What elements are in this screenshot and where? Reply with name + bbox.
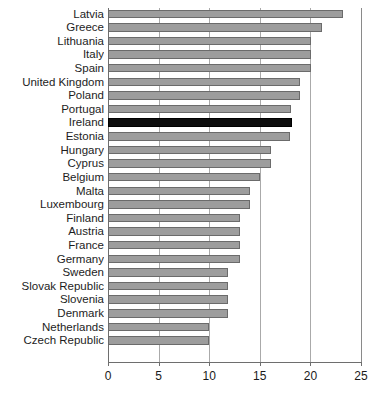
bar-row <box>108 144 361 158</box>
category-label-belgium: Belgium <box>0 171 104 184</box>
category-label-slovenia: Slovenia <box>0 293 104 306</box>
category-label-france: France <box>0 239 104 252</box>
category-label-germany: Germany <box>0 253 104 266</box>
x-tick-10 <box>209 362 210 366</box>
x-axis-line <box>108 362 361 363</box>
x-tick-5 <box>159 362 160 366</box>
bar-slovak-republic <box>108 282 228 291</box>
category-label-ireland: Ireland <box>0 116 104 129</box>
bar-france <box>108 241 240 250</box>
plot-area <box>108 8 361 362</box>
bar-row <box>108 76 361 90</box>
bar-united-kingdom <box>108 78 300 87</box>
category-label-portugal: Portugal <box>0 103 104 116</box>
bar-germany <box>108 255 240 264</box>
category-label-cyprus: Cyprus <box>0 157 104 170</box>
x-tick-label-20: 20 <box>304 369 317 383</box>
bar-row <box>108 267 361 281</box>
category-label-united-kingdom: United Kingdom <box>0 76 104 89</box>
category-label-sweden: Sweden <box>0 266 104 279</box>
bar-czech-republic <box>108 336 209 345</box>
x-tick-label-0: 0 <box>105 369 112 383</box>
bar-row <box>108 90 361 104</box>
bar-row <box>108 199 361 213</box>
bar-greece <box>108 23 322 32</box>
x-tick-15 <box>260 362 261 366</box>
bar-row <box>108 22 361 36</box>
bar-malta <box>108 187 250 196</box>
x-tick-25 <box>361 362 362 366</box>
bar-row <box>108 226 361 240</box>
bar-row <box>108 280 361 294</box>
bar-spain <box>108 64 311 73</box>
bar-row <box>108 185 361 199</box>
category-label-malta: Malta <box>0 185 104 198</box>
bar-row <box>108 253 361 267</box>
bar-portugal <box>108 105 291 114</box>
category-label-denmark: Denmark <box>0 307 104 320</box>
bar-row <box>108 62 361 76</box>
category-label-slovak-republic: Slovak Republic <box>0 280 104 293</box>
bar-row <box>108 35 361 49</box>
x-tick-label-25: 25 <box>354 369 367 383</box>
bar-italy <box>108 50 311 59</box>
bar-row <box>108 117 361 131</box>
bar-row <box>108 49 361 63</box>
category-axis-labels: LatviaGreeceLithuaniaItalySpainUnited Ki… <box>0 8 104 362</box>
category-label-hungary: Hungary <box>0 144 104 157</box>
category-label-lithuania: Lithuania <box>0 35 104 48</box>
bar-row <box>108 8 361 22</box>
category-label-austria: Austria <box>0 225 104 238</box>
bar-hungary <box>108 146 271 155</box>
x-tick-label-15: 15 <box>253 369 266 383</box>
bar-row <box>108 171 361 185</box>
bar-row <box>108 308 361 322</box>
category-label-latvia: Latvia <box>0 8 104 21</box>
bar-row <box>108 212 361 226</box>
bar-cyprus <box>108 159 271 168</box>
bar-row <box>108 239 361 253</box>
bar-chart: LatviaGreeceLithuaniaItalySpainUnited Ki… <box>0 0 376 401</box>
bar-sweden <box>108 268 228 277</box>
category-label-spain: Spain <box>0 62 104 75</box>
bar-row <box>108 103 361 117</box>
bar-austria <box>108 227 240 236</box>
category-label-czech-republic: Czech Republic <box>0 334 104 347</box>
bar-row <box>108 158 361 172</box>
bar-row <box>108 131 361 145</box>
bar-poland <box>108 91 300 100</box>
category-label-finland: Finland <box>0 212 104 225</box>
bar-netherlands <box>108 323 209 332</box>
category-label-greece: Greece <box>0 21 104 34</box>
category-label-netherlands: Netherlands <box>0 321 104 334</box>
category-label-estonia: Estonia <box>0 130 104 143</box>
bar-ireland <box>108 118 292 127</box>
bar-slovenia <box>108 295 228 304</box>
gridline-25 <box>361 8 362 362</box>
bar-belgium <box>108 173 260 182</box>
category-label-italy: Italy <box>0 48 104 61</box>
bar-finland <box>108 214 240 223</box>
bar-row <box>108 321 361 335</box>
bar-row <box>108 335 361 349</box>
category-label-luxembourg: Luxembourg <box>0 198 104 211</box>
category-label-poland: Poland <box>0 89 104 102</box>
x-tick-label-5: 5 <box>155 369 162 383</box>
bar-luxembourg <box>108 200 250 209</box>
bar-denmark <box>108 309 228 318</box>
bar-latvia <box>108 10 343 19</box>
x-tick-0 <box>108 362 109 366</box>
bar-estonia <box>108 132 290 141</box>
bar-lithuania <box>108 37 311 46</box>
x-tick-label-10: 10 <box>203 369 216 383</box>
bar-row <box>108 294 361 308</box>
x-tick-20 <box>310 362 311 366</box>
